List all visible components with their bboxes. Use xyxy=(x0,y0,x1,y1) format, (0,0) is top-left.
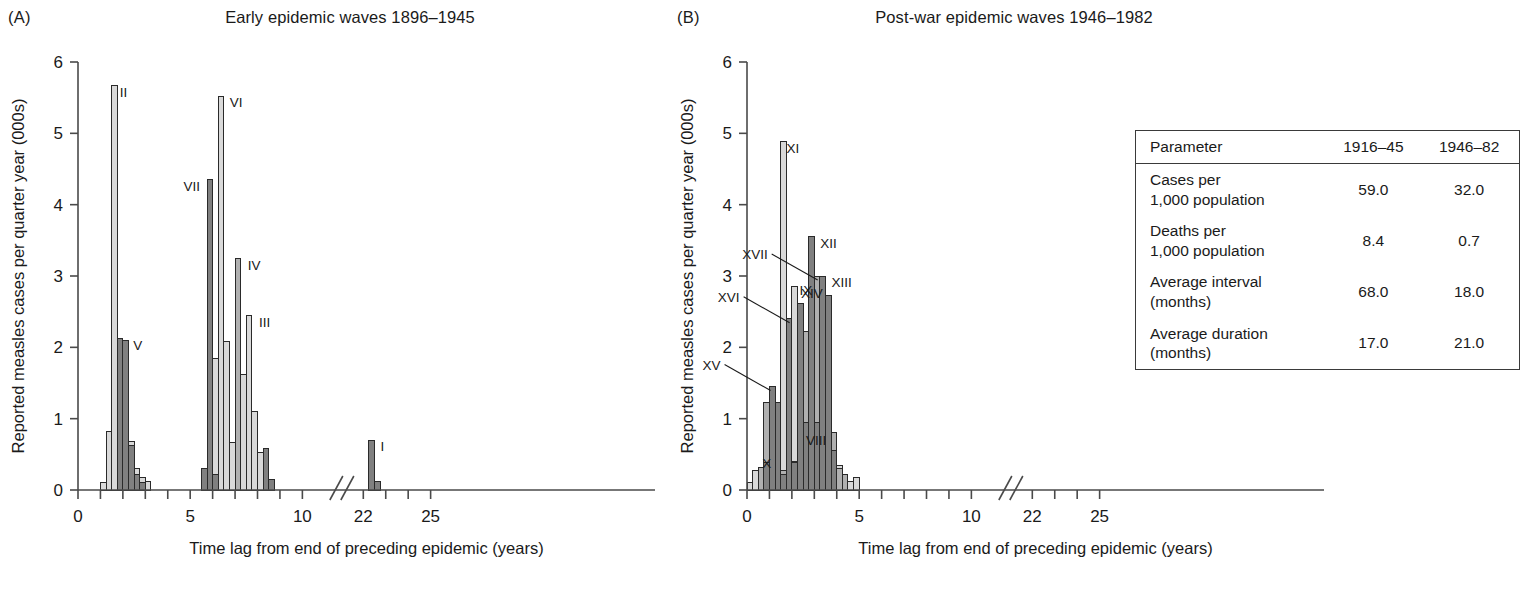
histogram-bar xyxy=(826,296,832,490)
x-axis-title: Time lag from end of preceding epidemic … xyxy=(858,539,1212,557)
histogram-bar xyxy=(106,432,112,490)
x-tick-label: 22 xyxy=(354,507,373,526)
plot-area: 012345605102225Time lag from end of prec… xyxy=(9,53,655,557)
histogram-bar xyxy=(263,449,269,490)
histogram-bar xyxy=(224,342,230,490)
y-tick-label: 1 xyxy=(54,410,63,429)
x-tick-label: 5 xyxy=(185,507,194,526)
histogram-bar xyxy=(775,403,781,490)
histogram-bar xyxy=(769,387,775,490)
x-tick-label: 22 xyxy=(1023,507,1042,526)
y-tick-label: 4 xyxy=(723,196,732,215)
y-tick-label: 5 xyxy=(54,124,63,143)
table-row: Cases per 1,000 population59.032.0 xyxy=(1136,164,1519,216)
histogram-bar xyxy=(809,237,815,490)
panel-b-title: Post-war epidemic waves 1946–1982 xyxy=(669,8,1339,27)
wave-label: IV xyxy=(248,258,261,273)
histogram-bar xyxy=(140,483,146,490)
wave-label: X xyxy=(762,456,771,471)
y-tick-label: 0 xyxy=(723,481,732,500)
table-header-period-2: 1946–82 xyxy=(1423,131,1519,164)
wave-label: I xyxy=(380,439,384,454)
histogram-bar xyxy=(781,474,787,490)
y-tick-label: 1 xyxy=(723,410,732,429)
histogram-bar xyxy=(246,316,252,490)
table-cell-parameter: Average duration (months) xyxy=(1136,318,1328,369)
wave-label: IX xyxy=(800,283,813,298)
axis-break-mark xyxy=(341,476,354,500)
wave-label: III xyxy=(259,315,270,330)
y-tick-label: 2 xyxy=(723,338,732,357)
x-tick-label: 10 xyxy=(293,507,312,526)
table-cell-parameter: Deaths per 1,000 population xyxy=(1136,215,1328,266)
panel-a-title: Early epidemic waves 1896–1945 xyxy=(0,8,670,27)
wave-label: XVI xyxy=(718,290,740,305)
y-axis-title: Reported measles cases per quarter year … xyxy=(678,99,696,454)
wave-label: XV xyxy=(703,358,721,373)
y-tick-label: 5 xyxy=(723,124,732,143)
histogram-bar xyxy=(786,319,792,490)
table-row: Deaths per 1,000 population8.40.7 xyxy=(1136,215,1519,266)
histogram-bar xyxy=(128,446,134,490)
histogram-bar xyxy=(842,474,848,490)
histogram-bar xyxy=(781,142,787,490)
y-tick-label: 3 xyxy=(54,267,63,286)
x-tick-label: 0 xyxy=(742,507,751,526)
histogram-bar xyxy=(848,481,854,490)
histogram-bar xyxy=(854,477,860,490)
histogram-bar xyxy=(201,469,207,490)
x-tick-label: 5 xyxy=(854,507,863,526)
table-cell-value-2: 0.7 xyxy=(1423,215,1519,266)
histogram-bar xyxy=(797,303,803,490)
histogram-bar xyxy=(117,339,123,490)
histogram-bar xyxy=(375,481,381,490)
histogram-bar xyxy=(218,96,224,490)
table-cell-value-1: 68.0 xyxy=(1328,266,1424,317)
table-header-period-1: 1916–45 xyxy=(1328,131,1424,164)
wave-label: XIII xyxy=(831,275,851,290)
histogram-bar xyxy=(145,481,151,490)
histogram-bar xyxy=(369,440,375,490)
wave-label: XII xyxy=(820,236,837,251)
histogram-bar xyxy=(252,412,258,490)
y-tick-label: 4 xyxy=(54,196,63,215)
histogram-bar xyxy=(792,287,798,490)
histogram-bar xyxy=(258,453,264,490)
wave-label: XVII xyxy=(742,247,768,262)
histogram-bar xyxy=(123,341,129,490)
histogram-bar xyxy=(241,374,247,490)
x-tick-label: 0 xyxy=(73,507,82,526)
x-tick-label: 10 xyxy=(962,507,981,526)
table-cell-value-1: 59.0 xyxy=(1328,164,1424,216)
series-dark xyxy=(764,237,837,490)
x-tick-label: 25 xyxy=(421,507,440,526)
histogram-bar xyxy=(235,259,241,490)
series-medium xyxy=(235,259,241,490)
histogram-bar xyxy=(207,180,213,490)
panel-b: (B) Post-war epidemic waves 1946–1982 01… xyxy=(669,0,1339,601)
histogram-bar xyxy=(753,470,759,490)
wave-label: II xyxy=(120,85,128,100)
table-row: Average interval (months)68.018.0 xyxy=(1136,266,1519,317)
y-tick-label: 3 xyxy=(723,267,732,286)
x-axis-title: Time lag from end of preceding epidemic … xyxy=(189,539,543,557)
axis-break-mark xyxy=(1010,476,1023,500)
table-header-parameter: Parameter xyxy=(1136,131,1328,164)
y-tick-label: 6 xyxy=(54,53,63,72)
histogram-bar xyxy=(831,451,837,490)
axis-break-mark xyxy=(330,476,343,500)
histogram-bar xyxy=(213,474,219,490)
y-tick-label: 6 xyxy=(723,53,732,72)
y-axis-title: Reported measles cases per quarter year … xyxy=(9,99,27,454)
table-cell-value-2: 32.0 xyxy=(1423,164,1519,216)
table-cell-parameter: Cases per 1,000 population xyxy=(1136,164,1328,216)
table-header-row: Parameter 1916–45 1946–82 xyxy=(1136,131,1519,164)
y-tick-label: 2 xyxy=(54,338,63,357)
panel-a: (A) Early epidemic waves 1896–1945 01234… xyxy=(0,0,670,601)
histogram-bar xyxy=(269,479,275,490)
histogram-bar xyxy=(100,483,106,490)
histogram-bar xyxy=(134,474,140,490)
histogram-bar xyxy=(229,443,235,490)
table-cell-value-2: 21.0 xyxy=(1423,318,1519,369)
